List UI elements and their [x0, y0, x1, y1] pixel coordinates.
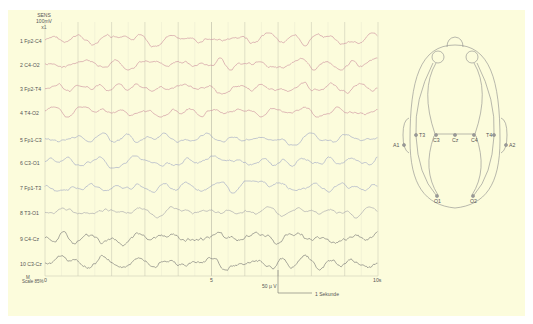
left-ear-icon [403, 118, 409, 153]
electrode-t3 [414, 133, 417, 136]
eeg-plot: T3 C3 Cz C4 T4 A1 A2 O1 O2 [0, 0, 533, 324]
head-diagram [403, 37, 507, 208]
label-o2: O2 [470, 198, 477, 204]
right-eye-icon [466, 51, 478, 63]
label-cz: Cz [452, 137, 459, 143]
label-c3: C3 [433, 137, 440, 143]
electrode-a2 [504, 143, 507, 146]
label-t3: T3 [419, 132, 425, 138]
label-t4: T4 [486, 132, 492, 138]
label-o1: O1 [434, 198, 441, 204]
electrodes [402, 133, 507, 197]
left-eye-icon [432, 51, 444, 63]
head-outline [410, 45, 500, 208]
electrode-labels: T3 C3 Cz C4 T4 A1 A2 O1 O2 [393, 132, 515, 204]
calibration-marker [278, 270, 312, 293]
electrode-a1 [402, 143, 405, 146]
label-a2: A2 [509, 142, 515, 148]
label-c4: C4 [471, 137, 478, 143]
electrode-t4 [492, 133, 495, 136]
right-ear-icon [501, 118, 507, 153]
label-a1: A1 [393, 142, 399, 148]
